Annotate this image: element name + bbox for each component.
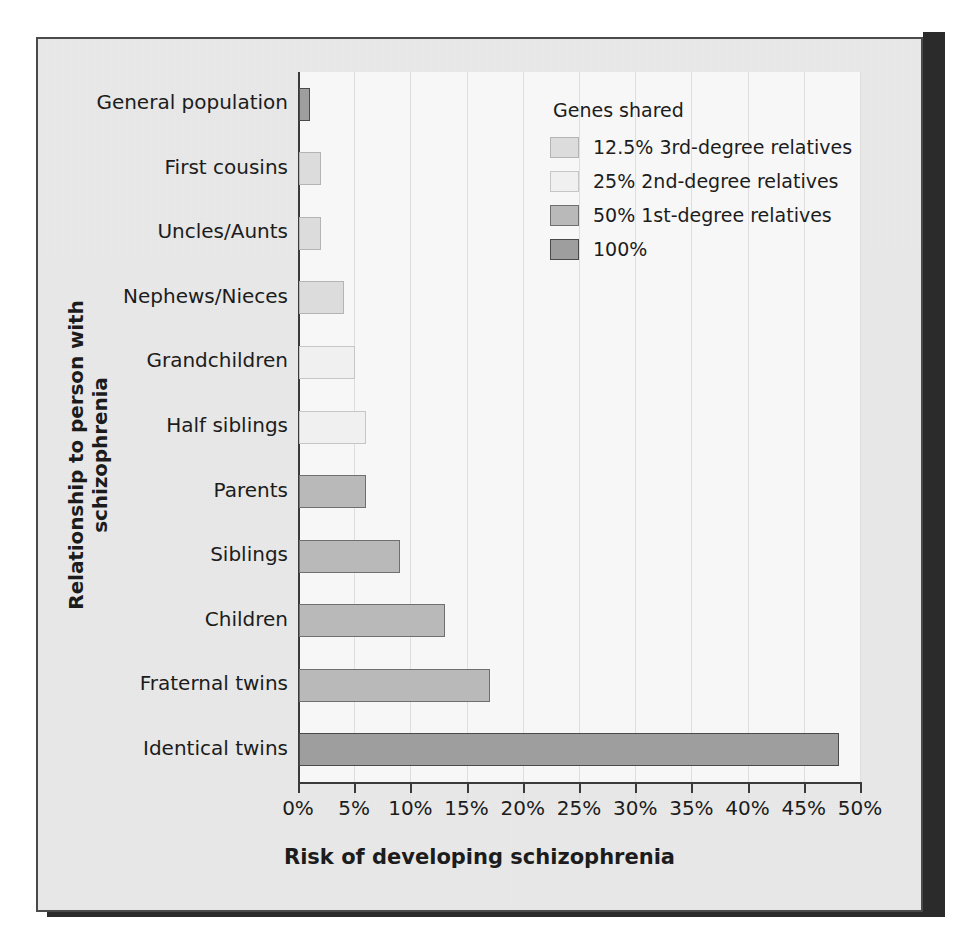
legend-item-label: 50% 1st-degree relatives	[593, 204, 832, 226]
x-axis-tick	[691, 782, 693, 793]
x-axis-tick	[748, 782, 750, 793]
y-axis-category-label: Parents	[214, 478, 288, 502]
bar	[299, 88, 310, 121]
x-axis-tick	[467, 782, 469, 793]
legend-swatch	[550, 171, 579, 192]
y-axis-title: Relationship to person with schizophreni…	[64, 225, 112, 685]
legend: Genes shared 12.5% 3rd-degree relatives2…	[550, 99, 880, 266]
bar	[299, 733, 839, 766]
y-axis-category-label: General population	[96, 90, 288, 114]
y-axis-category-label: Children	[205, 607, 288, 631]
figure-page: Relationship to person with schizophreni…	[0, 0, 965, 952]
x-axis-tick	[579, 782, 581, 793]
legend-swatch	[550, 137, 579, 158]
x-axis-tick	[523, 782, 525, 793]
x-axis-title: Risk of developing schizophrenia	[38, 845, 921, 869]
bar	[299, 217, 321, 250]
bar	[299, 346, 355, 379]
legend-item: 50% 1st-degree relatives	[550, 198, 880, 232]
y-axis-category-label: Identical twins	[143, 736, 288, 760]
gridline	[523, 72, 524, 812]
legend-item-label: 25% 2nd-degree relatives	[593, 170, 839, 192]
y-axis-category-label: Uncles/Aunts	[157, 219, 288, 243]
x-axis-tick	[354, 782, 356, 793]
x-axis-tick	[635, 782, 637, 793]
bar	[299, 152, 321, 185]
legend-title: Genes shared	[550, 99, 880, 121]
bar	[299, 475, 366, 508]
y-axis-category-label: Half siblings	[166, 413, 288, 437]
bar	[299, 540, 400, 573]
x-axis-tick	[298, 782, 300, 793]
x-axis-tick	[804, 782, 806, 793]
bar	[299, 604, 445, 637]
bar	[299, 411, 366, 444]
bar	[299, 669, 490, 702]
x-axis-tick	[410, 782, 412, 793]
legend-item: 25% 2nd-degree relatives	[550, 164, 880, 198]
legend-item: 12.5% 3rd-degree relatives	[550, 130, 880, 164]
x-axis-tick	[860, 782, 862, 793]
y-axis-category-label: Nephews/Nieces	[123, 284, 288, 308]
legend-item-label: 12.5% 3rd-degree relatives	[593, 136, 852, 158]
x-axis-tick-label: 50%	[825, 796, 895, 820]
y-axis-category-label: Siblings	[210, 542, 288, 566]
y-axis-category-label: Grandchildren	[146, 348, 288, 372]
y-axis-category-label: Fraternal twins	[140, 671, 288, 695]
legend-swatch	[550, 205, 579, 226]
legend-swatch	[550, 239, 579, 260]
legend-rows: 12.5% 3rd-degree relatives25% 2nd-degree…	[550, 130, 880, 266]
legend-item-label: 100%	[593, 238, 647, 260]
y-axis-category-label: First cousins	[165, 155, 288, 179]
bar	[299, 281, 344, 314]
chart-figure-frame: Relationship to person with schizophreni…	[36, 37, 923, 912]
figure-drop-shadow-right	[923, 32, 945, 917]
legend-item: 100%	[550, 232, 880, 266]
